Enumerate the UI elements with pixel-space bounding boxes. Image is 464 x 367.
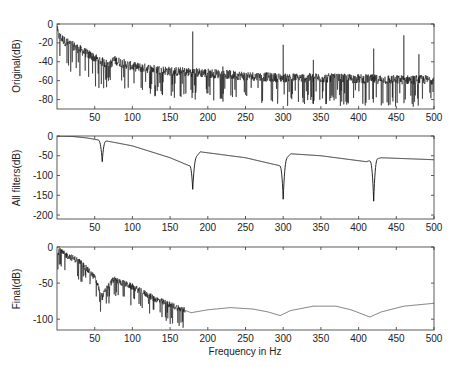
y-axis-label-final: Final(dB) [11,269,22,310]
x-tick-label: 150 [162,333,179,344]
axes-box [57,24,434,109]
x-axis-label: Frequency in Hz [209,346,282,357]
data-series-line [57,136,434,201]
y-tick-label: -100 [33,314,53,325]
x-tick-label: 250 [237,333,254,344]
x-tick-label: 450 [388,222,405,233]
x-tick-label: 450 [388,333,405,344]
x-tick-label: 50 [89,112,101,123]
x-tick-label: 100 [124,222,141,233]
y-tick-label: 0 [47,242,53,253]
x-tick-label: 250 [237,112,254,123]
x-tick-label: 150 [162,222,179,233]
x-tick-label: 350 [313,222,330,233]
y-tick-label: -50 [39,278,54,289]
y-tick-label: -100 [33,170,53,181]
subplot-original: 501001502002503003504004505000-20-40-60-… [39,19,443,124]
x-tick-label: 350 [313,112,330,123]
y-tick-label: -80 [39,94,54,105]
y-tick-label: -200 [33,210,53,221]
subplot-final: 501001502002503003504004505000-50-100 [33,242,443,345]
x-tick-label: 250 [237,222,254,233]
x-tick-label: 300 [275,222,292,233]
x-tick-label: 350 [313,333,330,344]
x-tick-label: 450 [388,112,405,123]
x-tick-label: 50 [89,333,101,344]
x-tick-label: 200 [199,333,216,344]
x-tick-label: 500 [426,222,443,233]
axes-box [57,247,434,330]
subplot-all-filters: 501001502002503003504004505000-50-100-15… [33,131,443,234]
x-tick-label: 100 [124,333,141,344]
x-tick-label: 200 [199,222,216,233]
y-tick-label: -60 [39,75,54,86]
y-axis-label-all-filters: All filters(dB) [11,150,22,207]
x-tick-label: 300 [275,112,292,123]
x-tick-label: 500 [426,333,443,344]
x-tick-label: 400 [350,333,367,344]
y-tick-label: 0 [47,19,53,30]
x-tick-label: 400 [350,222,367,233]
axes-box [57,136,434,219]
x-tick-label: 300 [275,333,292,344]
y-tick-label: -150 [33,190,53,201]
x-tick-label: 150 [162,112,179,123]
x-tick-label: 200 [199,112,216,123]
x-tick-label: 100 [124,112,141,123]
data-series-line [57,26,434,107]
x-tick-label: 500 [426,112,443,123]
y-tick-label: -40 [39,56,54,67]
y-tick-label: -50 [39,150,54,161]
data-series-line [57,248,434,328]
y-tick-label: -20 [39,37,54,48]
x-tick-label: 400 [350,112,367,123]
y-tick-label: 0 [47,131,53,142]
y-axis-label-original: Original(dB) [11,39,22,92]
x-tick-label: 50 [89,222,101,233]
figure: 501001502002503003504004505000-20-40-60-… [0,0,464,367]
